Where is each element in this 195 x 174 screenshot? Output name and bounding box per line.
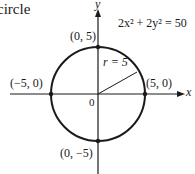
x-axis-arrow-icon xyxy=(177,91,185,97)
point-bottom xyxy=(96,139,100,143)
equation: 2x² + 2y² = 50 xyxy=(118,17,187,29)
point-label-bottom: (0, −5) xyxy=(60,147,93,159)
point-label-left: (−5, 0) xyxy=(10,77,43,89)
radius-label: r = 5 xyxy=(103,56,128,68)
radius-line xyxy=(98,72,137,94)
title-fragment: circle xyxy=(0,2,30,17)
y-axis-label: y xyxy=(95,0,100,10)
point-label-top: (0, 5) xyxy=(70,30,96,42)
origin-label: 0 xyxy=(89,97,95,108)
point-label-right: (5, 0) xyxy=(146,77,172,89)
x-axis-label: x xyxy=(186,86,191,98)
point-top xyxy=(96,45,100,49)
point-right xyxy=(143,92,147,96)
point-left xyxy=(49,92,53,96)
